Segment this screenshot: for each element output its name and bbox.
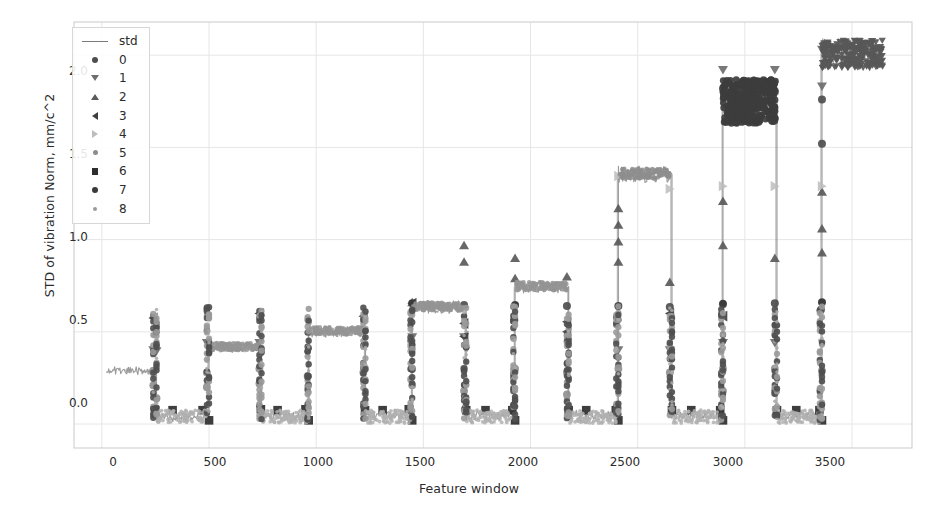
legend-label-std: std [112,34,138,48]
legend-label-8: 8 [112,202,127,216]
legend-item-8[interactable]: 8 [78,199,144,218]
legend-item-2[interactable]: 2 [78,88,144,107]
legend-item-5[interactable]: 5 [78,144,144,163]
x-tick-label-1000: 1000 [288,455,348,469]
legend-label-0: 0 [112,53,127,67]
legend-label-3: 3 [112,109,127,123]
legend-label-7: 7 [112,183,127,197]
legend-label-2: 2 [112,90,127,104]
legend-circle-tiny-icon [78,202,112,216]
legend-triangle-up-icon [78,90,112,104]
legend-item-3[interactable]: 3 [78,106,144,125]
legend-triangle-down-icon [78,71,112,85]
y-axis-label: STD of vibration Norm, mm/c^2 [42,51,57,341]
legend-item-7[interactable]: 7 [78,181,144,200]
legend-item-4[interactable]: 4 [78,125,144,144]
legend-label-1: 1 [112,71,127,85]
legend-circle-icon [78,53,112,67]
legend-square-icon [78,164,112,178]
x-tick-label-3000: 3000 [698,455,758,469]
legend-triangle-left-icon [78,109,112,123]
x-tick-label-3500: 3500 [800,455,860,469]
y-tick-label-0.5: 0.5 [42,313,88,327]
legend-circle-medium-icon [78,183,112,197]
y-tick-label-1.0: 1.0 [42,230,88,244]
chart-legend: std 0 1 2 3 4 5 6 [72,27,150,224]
x-tick-label-2500: 2500 [595,455,655,469]
x-axis-label: Feature window [0,481,938,496]
legend-item-1[interactable]: 1 [78,69,144,88]
legend-label-4: 4 [112,127,127,141]
x-tick-label-0: 0 [83,455,143,469]
legend-label-5: 5 [112,146,127,160]
x-tick-label-1500: 1500 [390,455,450,469]
x-tick-label-500: 500 [185,455,245,469]
y-tick-label-0.0: 0.0 [42,396,88,410]
legend-line-icon [78,34,112,48]
legend-label-6: 6 [112,164,127,178]
legend-triangle-right-icon [78,127,112,141]
x-tick-label-2000: 2000 [493,455,553,469]
legend-item-std[interactable]: std [78,32,144,51]
legend-circle-small-icon [78,146,112,160]
legend-item-6[interactable]: 6 [78,162,144,181]
chart-figure: STD of vibration Norm, mm/c^2 Feature wi… [0,0,938,509]
legend-item-0[interactable]: 0 [78,51,144,70]
